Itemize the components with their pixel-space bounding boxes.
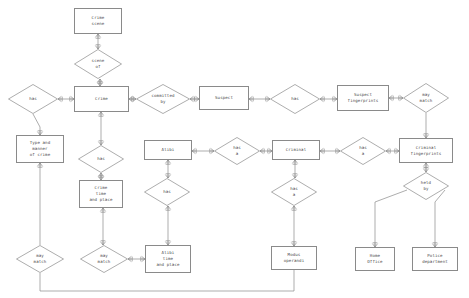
entity-label: Modus operandi [284,252,305,264]
relationship-scene_of[interactable]: scene of [74,49,122,79]
relationship-label: has a [233,145,241,157]
entity-type_manner_of_crime[interactable]: Type and manner of crime [16,135,64,163]
relationship-fp_may_match[interactable]: may match [403,83,449,113]
entity-label: Crime scene [92,15,105,27]
entity-label: Alibi [162,147,175,153]
relationship-type_may_match[interactable]: may match [16,245,64,273]
entity-label: Crime time and place [89,185,112,203]
relationship-label: has [97,156,105,162]
entity-police_department[interactable]: Police department [412,247,458,271]
entity-criminal[interactable]: Criminal [272,140,320,160]
relationship-held_by[interactable]: held by [403,172,449,200]
relationship-crim_fp_has_a[interactable]: has a [340,137,386,165]
relationship-label: has a [359,145,367,157]
relationship-crime_has_time[interactable]: has [78,145,124,173]
relationship-label: has [29,96,37,102]
relationship-suspect_has[interactable]: has [270,84,320,114]
er-diagram-canvas: Crime sceneCrimeType and manner of crime… [0,0,469,298]
entity-crime_time_place[interactable]: Crime time and place [79,180,123,208]
entity-home_office[interactable]: Home Office [355,247,395,271]
relationship-label: has a [290,186,298,198]
entity-alibi_time_place[interactable]: Alibi time and place [145,245,191,273]
relationship-committed_by[interactable]: committed by [136,84,190,114]
entity-crime[interactable]: Crime [74,86,129,112]
relationship-time_may_match[interactable]: may match [80,245,128,273]
entity-label: Home Office [367,253,382,265]
relationship-label: has [163,189,171,195]
relationship-alibi_has_a[interactable]: has a [214,137,260,165]
relationship-alibi_has[interactable]: has [144,178,190,206]
relationship-label: held by [421,180,431,192]
entity-label: Criminal fingerprints [411,145,442,157]
entity-label: Type and manner of crime [30,140,51,158]
entity-modus_operandi[interactable]: Modus operandi [271,246,317,270]
entity-label: Suspect fingerprints [348,92,379,104]
entity-label: Crime [95,96,108,102]
entity-alibi[interactable]: Alibi [144,140,192,160]
relationship-label: may match [34,253,47,265]
entity-label: Police department [422,253,448,265]
relationship-label: scene of [92,58,105,70]
relationship-label: may match [98,253,111,265]
entity-suspect[interactable]: Suspect [199,86,249,110]
entity-crime_scene[interactable]: Crime scene [74,8,122,34]
entity-label: Alibi time and place [156,250,179,268]
relationship-label: has [291,96,299,102]
relationship-crime_has[interactable]: has [8,84,58,114]
relationship-criminal_has_a[interactable]: has a [271,178,317,206]
entity-label: Suspect [215,95,233,101]
relationship-label: committed by [151,93,174,105]
entity-label: Criminal [286,147,307,153]
entity-suspect_fingerprints[interactable]: Suspect fingerprints [337,85,389,111]
relationship-label: may match [420,92,433,104]
entity-criminal_fingerprints[interactable]: Criminal fingerprints [399,138,453,163]
